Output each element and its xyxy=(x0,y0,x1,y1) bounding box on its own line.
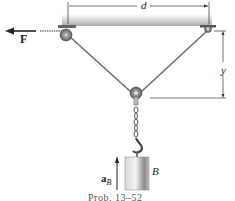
height-label: y xyxy=(221,64,226,76)
force-label: F xyxy=(20,32,27,47)
diagram-graphic xyxy=(0,0,235,201)
acceleration-label: aB xyxy=(101,172,111,187)
block-b xyxy=(125,157,149,190)
figure-caption: Prob. 13–52 xyxy=(88,192,142,201)
force-arrow xyxy=(5,28,64,35)
ceiling xyxy=(62,14,212,26)
right-pulley xyxy=(200,25,216,33)
acceleration-subscript: B xyxy=(107,178,112,187)
distance-label: d xyxy=(141,0,147,11)
dimension-y xyxy=(150,31,226,98)
block-label: B xyxy=(152,165,159,177)
acceleration-arrow xyxy=(115,156,119,190)
chain xyxy=(134,107,138,137)
ropes xyxy=(69,30,208,92)
hook xyxy=(133,138,142,157)
left-pulley xyxy=(58,25,76,41)
moving-pulley xyxy=(130,87,142,105)
